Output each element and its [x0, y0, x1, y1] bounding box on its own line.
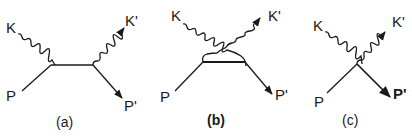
p-out-line — [93, 65, 122, 98]
photon-k-in-line — [325, 32, 362, 64]
label-k-in-b: K — [171, 8, 181, 23]
label-p-out-c: P' — [393, 86, 407, 101]
label-k-in-c: K — [313, 18, 323, 33]
caption-a: (a) — [56, 115, 73, 129]
photon-k-out-line — [203, 18, 261, 62]
label-p-in-a: P — [6, 88, 16, 103]
label-p-out-b: P' — [275, 87, 288, 102]
p-out-line — [357, 64, 390, 97]
p-in-line — [327, 64, 357, 93]
photon-k-in-line — [18, 34, 55, 65]
label-p-in-b: P — [160, 89, 170, 104]
label-k-out-a: K' — [125, 13, 138, 28]
diagram-a — [18, 28, 124, 98]
p-in-line — [175, 62, 203, 91]
diagram-c — [325, 32, 390, 97]
p-out-line — [245, 62, 272, 94]
label-k-out-b: K' — [268, 8, 281, 23]
caption-c: (c) — [342, 113, 358, 127]
photon-k-in-line — [183, 24, 246, 66]
diagram-b — [175, 18, 272, 94]
label-k-in-a: K — [6, 20, 16, 35]
photon-k-out-line — [93, 28, 124, 65]
label-k-out-c: K' — [392, 14, 405, 29]
label-p-out-a: P' — [124, 98, 137, 113]
p-in-line — [22, 65, 51, 91]
caption-b: (b) — [207, 113, 225, 127]
label-p-in-c: P — [314, 94, 324, 109]
